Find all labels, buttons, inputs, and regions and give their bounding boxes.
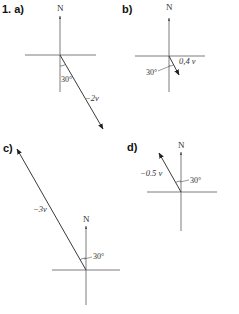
north-label: N (178, 140, 185, 150)
diagram-part-b: b) N 30° 0,4 v⃗ (122, 2, 205, 92)
angle-label: 30° (61, 75, 72, 84)
diagram-part-c: c) N 30° −3v⃗ (3, 142, 120, 305)
diagram-part-a: 1. a) N 30° −2v⃗ (2, 3, 105, 129)
part-label: d) (127, 141, 138, 153)
angle-leader-line (158, 66, 170, 71)
vector-label: −2v⃗ (85, 93, 105, 103)
vector-label: −0.5 v⃗ (140, 168, 169, 178)
angle-label: 30° (93, 252, 104, 261)
vector-label: −3v⃗ (33, 204, 53, 214)
part-label: b) (122, 3, 133, 15)
angle-arc (60, 65, 66, 67)
vector-label: 0,4 v⃗ (179, 56, 202, 66)
diagram-part-d: d) N 30° −0.5 v⃗ (127, 140, 217, 231)
vector-arrow (169, 56, 179, 75)
angle-label: 30° (146, 68, 157, 77)
problem-number-label: 1. a) (2, 3, 24, 15)
angle-label: 30° (190, 176, 201, 185)
north-label: N (166, 2, 173, 12)
north-label: N (83, 214, 90, 224)
part-label: c) (3, 142, 13, 154)
vector-diagrams: 1. a) N 30° −2v⃗ b) N 30° 0,4 v⃗ c) N 30… (0, 0, 239, 314)
north-label: N (57, 3, 64, 13)
vector-arrow (60, 55, 103, 129)
